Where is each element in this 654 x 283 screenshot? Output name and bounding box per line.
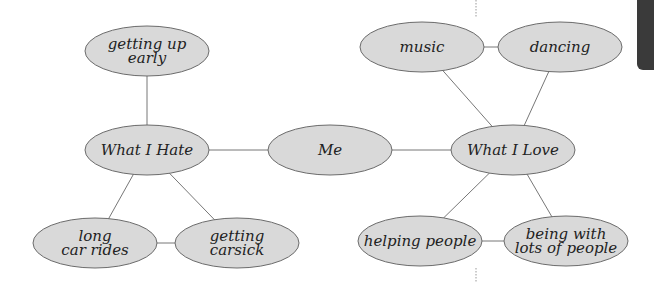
node-label: car rides [61,241,129,259]
node-what-i-love: What I Love [451,125,575,175]
node-getting-up-early: getting upearly [85,26,209,76]
node-dancing: dancing [498,22,622,72]
node-helping-people: helping people [358,216,482,266]
node-being-with-lots-of-people: being withlots of people [504,216,628,266]
concept-web-diagram: MeWhat I HateWhat I Lovegetting upearlyl… [0,0,654,283]
node-what-i-hate: What I Hate [85,125,209,175]
node-long-car-rides: longcar rides [33,218,157,268]
node-label: dancing [530,38,591,56]
node-label: Me [317,141,342,159]
nodes: MeWhat I HateWhat I Lovegetting upearlyl… [33,22,628,268]
node-label: carsick [210,241,265,259]
node-music: music [360,22,484,72]
node-label: early [128,49,167,67]
node-me: Me [268,125,392,175]
node-label: What I Hate [101,141,194,159]
node-label: lots of people [515,239,618,257]
node-label: What I Love [467,141,559,159]
page-tab [637,0,654,70]
node-label: helping people [364,232,477,250]
node-label: music [400,38,445,56]
node-getting-carsick: gettingcarsick [175,218,299,268]
